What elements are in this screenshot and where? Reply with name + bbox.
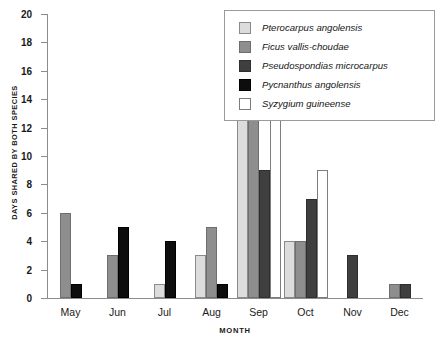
x-axis-line: [47, 298, 423, 299]
y-axis-tick-label: 4: [26, 236, 32, 247]
x-axis-tick-label: Jun: [109, 306, 126, 318]
legend-swatch: [239, 60, 251, 72]
legend-label: Pycnanthus angolensis: [262, 79, 361, 90]
y-axis-tick-label: 12: [21, 122, 32, 133]
legend-item: Pterocarpus angolensis: [225, 18, 434, 37]
bar: [295, 241, 306, 298]
legend-swatch: [239, 22, 251, 34]
bar: [317, 170, 328, 298]
bar-group: May: [47, 14, 94, 298]
bar: [107, 255, 118, 298]
y-axis-tick-label: 8: [26, 179, 32, 190]
legend-item: Pycnanthus angolensis: [225, 75, 434, 94]
y-axis-tick-label: 2: [26, 264, 32, 275]
y-axis-title: DAYS SHARED BY BOTH SPECIES: [10, 53, 19, 253]
legend-item: Pseudospondias microcarpus: [225, 56, 434, 75]
x-axis-tick-label: Jul: [158, 306, 171, 318]
bar: [165, 241, 176, 298]
legend: Pterocarpus angolensisFicus vallis-choud…: [224, 10, 435, 121]
legend-swatch: [239, 79, 251, 91]
legend-item: Ficus vallis-choudae: [225, 37, 434, 56]
bar: [284, 241, 295, 298]
y-axis-tick-label: 10: [21, 151, 32, 162]
bar-chart: DAYS SHARED BY BOTH SPECIES 024681012141…: [0, 0, 443, 350]
y-axis-tick-label: 6: [26, 207, 32, 218]
legend-label: Pterocarpus angolensis: [262, 22, 362, 33]
y-axis-tick-label: 0: [26, 293, 32, 304]
y-axis-tick-label: 16: [21, 65, 32, 76]
y-axis-tick-label: 18: [21, 37, 32, 48]
legend-swatch: [239, 98, 251, 110]
x-axis-title: MONTH: [47, 326, 423, 335]
bar-group: Jun: [94, 14, 141, 298]
x-axis-tick-label: Sep: [249, 306, 268, 318]
x-axis-tick-label: May: [61, 306, 81, 318]
bar: [270, 99, 281, 298]
bar: [195, 255, 206, 298]
x-axis-tick-label: Dec: [390, 306, 409, 318]
legend-label: Syzygium guineense: [262, 98, 351, 109]
bar: [71, 284, 82, 298]
x-axis-tick-label: Nov: [343, 306, 362, 318]
bar-group: Jul: [141, 14, 188, 298]
bar: [389, 284, 400, 298]
bar: [306, 199, 317, 298]
x-axis-tick-label: Oct: [297, 306, 313, 318]
x-axis-tick-label: Aug: [202, 306, 221, 318]
y-axis-tick-label: 14: [21, 94, 32, 105]
legend-label: Pseudospondias microcarpus: [262, 60, 388, 71]
bar: [154, 284, 165, 298]
legend-swatch: [239, 41, 251, 53]
bar: [347, 255, 358, 298]
bar: [400, 284, 411, 298]
y-axis-tick: 0: [41, 298, 47, 299]
legend-label: Ficus vallis-choudae: [262, 41, 349, 52]
y-axis-tick-label: 20: [21, 9, 32, 20]
bar: [206, 227, 217, 298]
bar: [60, 213, 71, 298]
legend-item: Syzygium guineense: [225, 94, 434, 113]
bar: [118, 227, 129, 298]
bar: [217, 284, 228, 298]
bar: [259, 170, 270, 298]
